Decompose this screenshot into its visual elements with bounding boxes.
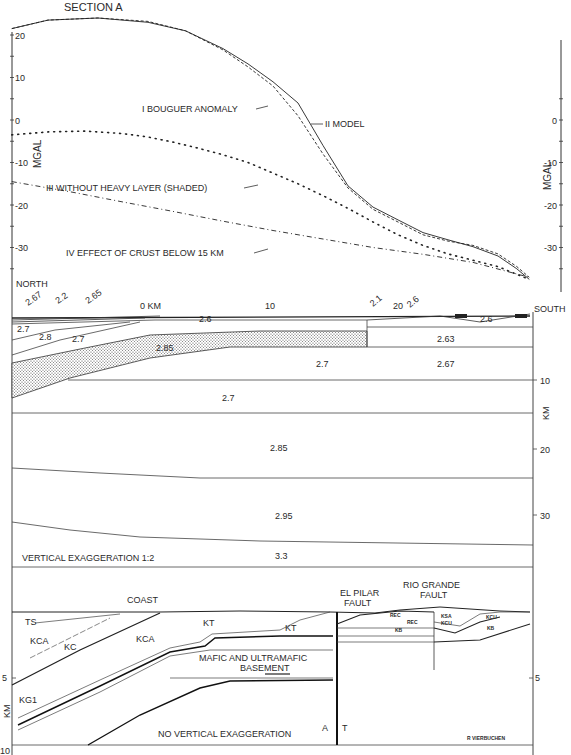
- left-y-tick-label: -10: [15, 158, 28, 168]
- depth-axis-label: KM: [541, 407, 551, 421]
- outcrop-mark: [455, 314, 467, 318]
- geologic-depth-axis-label: KM: [2, 705, 12, 719]
- series-line-4: [12, 182, 530, 278]
- leader-bouguer: [256, 106, 268, 109]
- rio-grande-label-2: FAULT: [420, 590, 448, 600]
- series-layer: [12, 18, 530, 279]
- unit-kg1: KG1: [19, 695, 37, 705]
- surface-density-2-2: 2.2: [53, 290, 69, 305]
- density-label: 3.3: [275, 551, 288, 561]
- depth-tick-label-5-right: 5: [535, 673, 540, 683]
- left-y-tick-label: 10: [15, 73, 25, 83]
- topographic-surface: [12, 607, 530, 613]
- depth-tick-label-20: 20: [540, 445, 550, 455]
- surface-density-2-6: 2.6: [405, 294, 421, 310]
- unit-kca-center: KCA: [136, 634, 155, 644]
- author-credit: R VIERBUCHEN: [467, 735, 505, 741]
- right-y-tick-label: 0: [552, 116, 557, 126]
- density-label: 2.67: [437, 359, 455, 369]
- annotation-without-heavy-layer: III WITHOUT HEAVY LAYER (SHADED): [46, 183, 207, 193]
- section-title: SECTION A: [64, 1, 123, 13]
- south-lens: [367, 314, 530, 322]
- depth-tick-label-10-left: 10: [0, 746, 10, 755]
- mafic-label-1: MAFIC AND ULTRAMAFIC: [199, 653, 308, 663]
- density-label: 2.7: [316, 359, 329, 369]
- geologic-section: COAST EL PILAR FAULT RIO GRANDE FAULT TS…: [0, 580, 540, 755]
- south-label: SOUTH: [534, 304, 566, 314]
- x-tick-label-10: 10: [265, 301, 275, 311]
- x-tick-label-0: 0 KM: [140, 301, 161, 311]
- surface-density-2-67: 2.67: [23, 289, 43, 307]
- layer-boundary: [12, 468, 533, 478]
- surface-density-2-65: 2.65: [83, 287, 103, 305]
- el-pilar-label-2: FAULT: [344, 598, 372, 608]
- density-label: 2.63: [437, 334, 455, 344]
- unit-kb-2: KB: [487, 625, 495, 631]
- density-label: 2.8: [39, 332, 52, 342]
- left-y-tick-label: 20: [15, 31, 25, 41]
- series-line-1: [12, 18, 530, 277]
- kb-contact: [434, 624, 530, 642]
- depth-tick-label-30: 30: [540, 511, 550, 521]
- el-pilar-label-1: EL PILAR: [340, 588, 380, 598]
- leader-effect-of-crust: [254, 249, 268, 253]
- north-label: NORTH: [16, 279, 48, 289]
- figure-canvas: SECTION A 20100-10-20-30 MGAL 0-10-20-30…: [0, 0, 571, 755]
- unit-kt-left: KT: [203, 618, 215, 628]
- density-label-shaded: 2.85: [156, 343, 174, 353]
- unit-ts: TS: [25, 617, 37, 627]
- annotation-effect-of-crust: IV EFFECT OF CRUST BELOW 15 KM: [66, 248, 224, 258]
- no-vertical-exaggeration-note: NO VERTICAL EXAGGERATION: [158, 729, 291, 739]
- right-y-axis-label: MGAL: [542, 161, 553, 190]
- series-line-2: [12, 18, 530, 279]
- depth-tick-label-5-left: 5: [2, 673, 7, 683]
- left-y-axis-label: MGAL: [32, 139, 43, 168]
- annotation-bouguer: I BOUGUER ANOMALY: [142, 104, 238, 114]
- left-y-tick-label: -30: [15, 243, 28, 253]
- mafic-label-2: BASEMENT: [240, 663, 290, 673]
- density-label: 2.85: [270, 443, 288, 453]
- surface-density-2-1: 2.1: [368, 293, 384, 309]
- crustal-section: 2.67 2.2 2.65 2.1 2.6 2.7 2.8 2.7 2.6: [12, 287, 551, 755]
- coast-label: COAST: [127, 595, 159, 605]
- outcrop-mark: [515, 314, 527, 318]
- left-y-ticks: 20100-10-20-30: [10, 31, 28, 269]
- unit-rec-2: REC: [407, 619, 418, 625]
- x-tick-label-20: 20: [393, 301, 403, 311]
- heavy-layer-shaded: [12, 331, 367, 398]
- unit-kb-1: KB: [395, 627, 403, 633]
- density-label: 2.95: [275, 511, 293, 521]
- left-y-tick-label: -20: [15, 201, 28, 211]
- density-label: 2.7: [17, 324, 30, 334]
- fault-side-t: T: [342, 723, 348, 733]
- leader-without-heavy-layer: [244, 185, 258, 188]
- depth-tick-label-10: 10: [540, 376, 550, 386]
- density-label: 2.7: [72, 334, 85, 344]
- unit-kcu-2: KCU: [486, 614, 497, 620]
- rio-grande-label-1: RIO GRANDE: [403, 580, 460, 590]
- moho: [12, 522, 533, 545]
- left-y-tick-label: 0: [15, 116, 20, 126]
- gravity-chart: SECTION A 20100-10-20-30 MGAL 0-10-20-30…: [10, 1, 566, 314]
- unit-kca-left: KCA: [30, 636, 49, 646]
- right-y-tick-label: -30: [544, 243, 557, 253]
- density-label: 2.6: [199, 314, 212, 324]
- unit-kt-right: KT: [285, 623, 297, 633]
- ts-boundary: [35, 614, 120, 623]
- unit-kc: KC: [64, 642, 77, 652]
- density-label: 2.7: [222, 393, 235, 403]
- right-y-tick-label: -20: [544, 201, 557, 211]
- unit-kcu-1: KCU: [441, 620, 452, 626]
- annotation-model: II MODEL: [325, 119, 365, 129]
- unit-ksa: KSA: [441, 613, 452, 619]
- unit-rec-1: REC: [390, 612, 401, 618]
- fault-side-a: A: [322, 723, 328, 733]
- density-label: 2.6: [480, 314, 493, 324]
- vertical-exaggeration-note: VERTICAL EXAGGERATION 1:2: [22, 553, 154, 563]
